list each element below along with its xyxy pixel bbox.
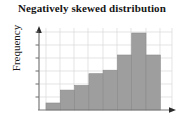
- x-axis-arrow-icon: [169, 107, 176, 113]
- bar-4: [89, 74, 103, 110]
- bar-5: [103, 70, 117, 110]
- bar-8: [146, 55, 160, 110]
- bar-6: [117, 55, 131, 110]
- bar-7: [132, 33, 146, 110]
- y-axis: [36, 26, 42, 110]
- bar-2: [60, 90, 74, 110]
- bar-1: [46, 103, 60, 110]
- plot-area: [0, 0, 184, 119]
- chart-figure: Negatively skewed distribution Frequency: [0, 0, 184, 119]
- bar-3: [75, 85, 89, 110]
